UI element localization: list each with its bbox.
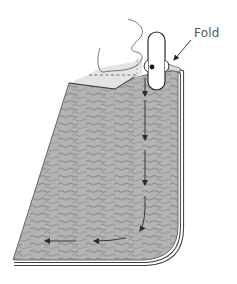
fabric-body: [13, 70, 178, 260]
presser-foot: [144, 32, 169, 90]
fold-label: Fold: [194, 26, 220, 40]
fold-pointer: [174, 40, 191, 60]
needle-dot: [150, 65, 155, 70]
hem-diagram: [0, 0, 237, 284]
